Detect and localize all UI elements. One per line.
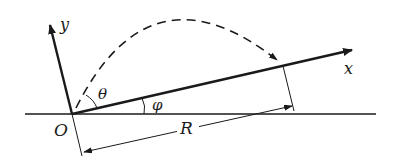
- y-axis-arrow: [50, 25, 72, 114]
- x-axis-arrow: [72, 50, 352, 114]
- phi-label: φ: [152, 96, 163, 114]
- y-axis-label: y: [59, 15, 70, 34]
- theta-angle-arc: [86, 95, 97, 108]
- perpendicular-line-landing: [283, 66, 294, 111]
- theta-label: θ: [98, 85, 107, 103]
- range-label: R: [179, 118, 193, 138]
- phi-angle-arc: [142, 98, 145, 114]
- origin-label: O: [54, 120, 68, 140]
- x-axis-label: x: [344, 59, 353, 78]
- perpendicular-line-origin: [72, 114, 82, 156]
- projectile-incline-diagram: y x θ φ O R: [0, 0, 394, 160]
